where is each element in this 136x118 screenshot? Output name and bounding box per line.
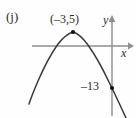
y-axis-arrowhead	[109, 15, 116, 22]
x-axis-arrowhead	[128, 43, 134, 50]
x-axis-label: x	[121, 46, 126, 61]
figure-panel: (j) (–3,5) y x –13	[0, 0, 136, 118]
vertex-coordinate-label: (–3,5)	[50, 12, 79, 27]
vertex-point	[71, 30, 75, 34]
y-axis-label: y	[103, 13, 108, 28]
y-intercept-label: –13	[81, 79, 99, 94]
y-intercept-point	[110, 86, 114, 90]
part-label: (j)	[6, 9, 18, 25]
